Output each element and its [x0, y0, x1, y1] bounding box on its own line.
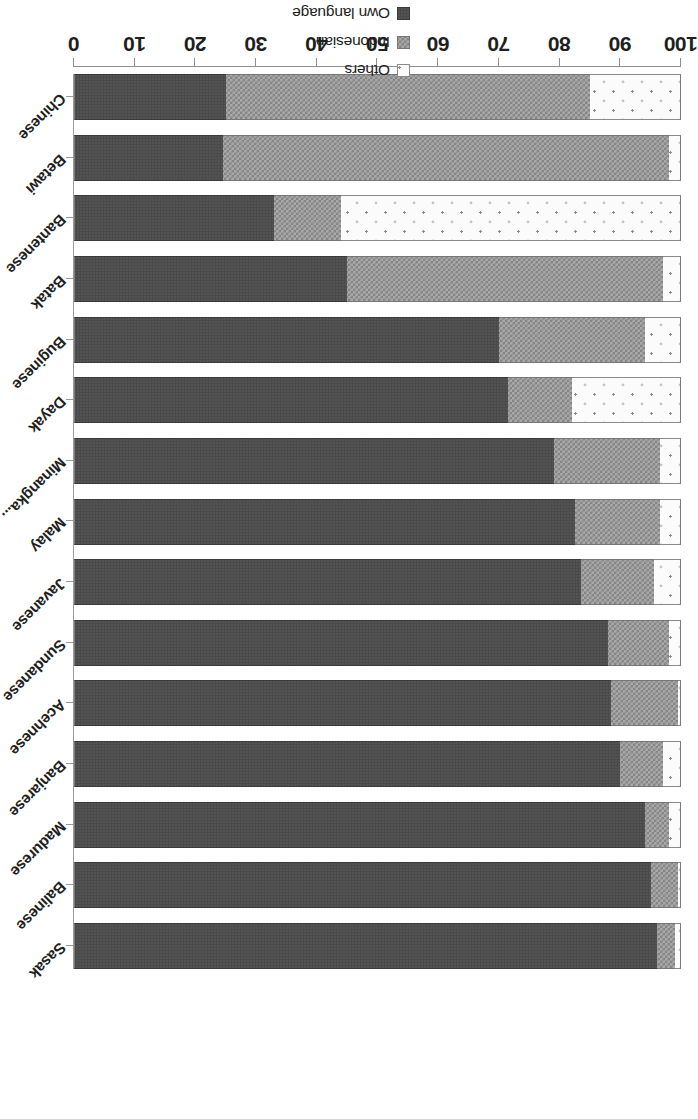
- indonesian-swatch: [397, 36, 410, 49]
- segment-indonesian[interactable]: [499, 317, 645, 363]
- bar-row[interactable]: [74, 438, 681, 484]
- segment-own-language[interactable]: [74, 195, 274, 241]
- segment-own-language[interactable]: [74, 135, 223, 181]
- segment-own-language[interactable]: [74, 741, 620, 787]
- bar-row[interactable]: [74, 256, 681, 302]
- segment-others[interactable]: [660, 438, 681, 484]
- segment-indonesian[interactable]: [347, 256, 663, 302]
- segment-indonesian[interactable]: [620, 741, 662, 787]
- segment-others[interactable]: [660, 499, 681, 545]
- category-label: Balinese: [13, 878, 70, 935]
- value-axis-tick-label: 90: [609, 32, 631, 56]
- segment-own-language[interactable]: [74, 680, 611, 726]
- value-axis-tick-label: 10: [124, 32, 146, 56]
- value-axis-tick-label: 70: [488, 32, 510, 56]
- bar-row[interactable]: [74, 741, 681, 787]
- segment-others[interactable]: [669, 802, 681, 848]
- value-axis-tick: [437, 58, 438, 67]
- bar-row[interactable]: [74, 620, 681, 666]
- segment-others[interactable]: [675, 923, 681, 969]
- segment-indonesian[interactable]: [223, 135, 669, 181]
- value-axis-tick: [680, 58, 681, 67]
- bar-row[interactable]: [74, 317, 681, 363]
- bar-row[interactable]: [74, 377, 681, 423]
- plot-area: [74, 74, 681, 969]
- value-axis-tick: [559, 58, 560, 67]
- segment-own-language[interactable]: [74, 499, 575, 545]
- category-label: Dayak: [25, 393, 69, 437]
- own-language-swatch: [397, 7, 410, 20]
- category-label: Acehnese: [6, 696, 69, 759]
- segment-indonesian[interactable]: [554, 438, 660, 484]
- legend-item[interactable]: Indonesian: [316, 35, 410, 51]
- category-label: Javanese: [8, 575, 69, 636]
- segment-indonesian[interactable]: [508, 377, 572, 423]
- value-axis-tick: [134, 58, 135, 67]
- segment-indonesian[interactable]: [581, 559, 654, 605]
- bar-row[interactable]: [74, 559, 681, 605]
- segment-others[interactable]: [663, 741, 681, 787]
- value-axis-tick-label: 60: [427, 32, 449, 56]
- segment-indonesian[interactable]: [657, 923, 675, 969]
- category-label: Batak: [27, 272, 69, 314]
- segment-own-language[interactable]: [74, 317, 499, 363]
- value-axis-tick: [255, 58, 256, 67]
- value-axis-tick: [498, 58, 499, 67]
- segment-own-language[interactable]: [74, 256, 347, 302]
- value-axis-tick: [73, 58, 74, 67]
- segment-others[interactable]: [678, 862, 681, 908]
- category-label: Malay: [27, 514, 69, 556]
- category-label: Betawi: [22, 150, 69, 197]
- segment-own-language[interactable]: [74, 74, 226, 120]
- segment-indonesian[interactable]: [611, 680, 678, 726]
- legend: OthersIndonesianOwn language: [260, 6, 410, 79]
- legend-item-label: Own language: [292, 6, 390, 22]
- legend-item[interactable]: Own language: [292, 6, 410, 22]
- segment-indonesian[interactable]: [651, 862, 678, 908]
- segment-others[interactable]: [645, 317, 681, 363]
- others-swatch: [397, 64, 410, 77]
- bar-row[interactable]: [74, 680, 681, 726]
- segment-own-language[interactable]: [74, 862, 651, 908]
- segment-indonesian[interactable]: [274, 195, 341, 241]
- segment-others[interactable]: [341, 195, 681, 241]
- category-label: Madurese: [7, 817, 70, 880]
- bar-row[interactable]: [74, 135, 681, 181]
- category-axis-line: [73, 74, 74, 969]
- bar-row[interactable]: [74, 195, 681, 241]
- bar-group: [74, 74, 681, 969]
- category-label: Bantenese: [2, 211, 69, 278]
- segment-own-language[interactable]: [74, 923, 657, 969]
- value-axis-tick: [194, 58, 195, 67]
- segment-others[interactable]: [678, 680, 681, 726]
- category-label: Buginese: [8, 332, 69, 393]
- segment-own-language[interactable]: [74, 559, 581, 605]
- segment-others[interactable]: [654, 559, 681, 605]
- segment-others[interactable]: [572, 377, 681, 423]
- segment-indonesian[interactable]: [608, 620, 669, 666]
- bar-row[interactable]: [74, 74, 681, 120]
- bar-row[interactable]: [74, 802, 681, 848]
- segment-others[interactable]: [590, 74, 681, 120]
- bar-row[interactable]: [74, 862, 681, 908]
- category-label: Chinese: [15, 90, 69, 144]
- segment-own-language[interactable]: [74, 438, 554, 484]
- segment-own-language[interactable]: [74, 377, 508, 423]
- segment-others[interactable]: [663, 256, 681, 302]
- legend-item-label: Others: [345, 63, 390, 79]
- segment-indonesian[interactable]: [645, 802, 669, 848]
- segment-others[interactable]: [669, 135, 681, 181]
- bar-row[interactable]: [74, 923, 681, 969]
- segment-own-language[interactable]: [74, 620, 608, 666]
- bar-row[interactable]: [74, 499, 681, 545]
- segment-others[interactable]: [669, 620, 681, 666]
- value-axis-tick-label: 20: [184, 32, 206, 56]
- segment-indonesian[interactable]: [575, 499, 660, 545]
- legend-item[interactable]: Others: [345, 63, 410, 79]
- value-axis-tick-label: 100: [664, 32, 698, 56]
- segment-own-language[interactable]: [74, 802, 645, 848]
- segment-indonesian[interactable]: [226, 74, 590, 120]
- value-axis-tick-label: 80: [548, 32, 570, 56]
- value-axis-tick-label: 0: [68, 32, 79, 56]
